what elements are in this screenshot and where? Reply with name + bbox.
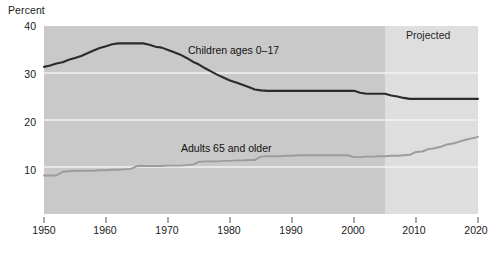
x-tick-label-1960: 1960 [85,224,125,236]
x-tick-label-2020: 2020 [456,224,496,236]
y-tick-label-30: 30 [8,68,36,80]
x-tick-label-1990: 1990 [271,224,311,236]
projected-region-label: Projected [406,29,450,41]
y-tick-label-20: 20 [8,116,36,128]
chart-figure: Percent 40 30 20 10 1950 1960 1970 1980 … [0,0,502,254]
x-tick-label-2000: 2000 [333,224,373,236]
x-tick-label-1970: 1970 [147,224,187,236]
y-tick-label-10: 10 [8,164,36,176]
x-tick-label-1950: 1950 [24,224,64,236]
x-tick-label-2010: 2010 [394,224,434,236]
x-tick-label-1980: 1980 [209,224,249,236]
series-label-adults: Adults 65 and older [181,142,271,154]
y-axis-title: Percent [8,4,45,16]
series-label-children: Children ages 0–17 [188,44,279,56]
y-tick-label-40: 40 [8,20,36,32]
